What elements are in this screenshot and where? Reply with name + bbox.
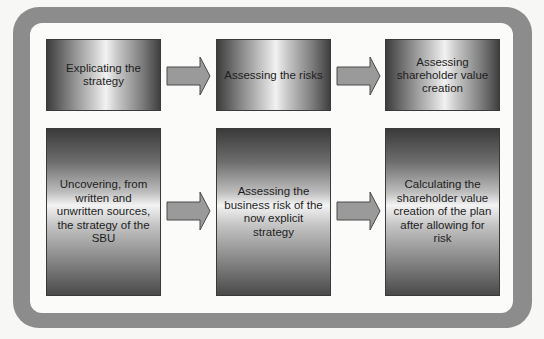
detail-uncovering-strategy: Uncovering, from written and unwritten s…	[46, 128, 161, 296]
step-label: Assessing shareholder value creation	[390, 56, 495, 95]
detail-assessing-business-risk: Assessing the business risk of the now e…	[216, 128, 331, 296]
step-explicating-strategy: Explicating the strategy	[46, 39, 161, 111]
detail-label: Uncovering, from written and unwritten s…	[53, 178, 154, 246]
step-assessing-shareholder-value: Assessing shareholder value creation	[385, 39, 500, 111]
arrow-right-icon	[166, 191, 212, 231]
arrow-right-icon	[336, 191, 382, 231]
detail-label: Assessing the business risk of the now e…	[223, 185, 324, 239]
step-label: Assessing the risks	[224, 69, 322, 82]
arrow-right-icon	[336, 56, 382, 96]
step-label: Explicating the strategy	[47, 62, 160, 88]
detail-label: Calculating the shareholder value creati…	[392, 178, 493, 246]
step-assessing-risks: Assessing the risks	[216, 39, 331, 111]
arrow-right-icon	[166, 56, 212, 96]
detail-calculating-shareholder-value: Calculating the shareholder value creati…	[385, 128, 500, 296]
